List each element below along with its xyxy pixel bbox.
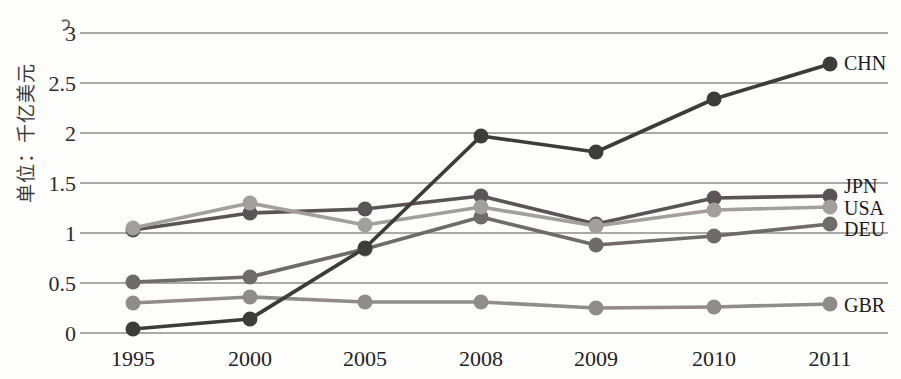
series-label-GBR: GBR bbox=[844, 294, 886, 316]
data-point-USA bbox=[358, 218, 373, 233]
data-point-GBR bbox=[243, 290, 258, 305]
data-point-GBR bbox=[823, 297, 838, 312]
data-point-CHN bbox=[358, 241, 373, 256]
data-point-USA bbox=[126, 221, 141, 236]
chart-figure: 单位：千亿美元 00.511.522.531995200020052008200… bbox=[0, 0, 901, 379]
y-tick-label: 0 bbox=[65, 321, 76, 346]
y-tick-label: 1 bbox=[65, 221, 76, 246]
data-point-USA bbox=[474, 200, 489, 215]
data-point-CHN bbox=[243, 312, 258, 327]
data-point-USA bbox=[823, 200, 838, 215]
series-line-DEU bbox=[133, 217, 830, 282]
data-point-CHN bbox=[589, 145, 604, 160]
y-tick-label: 3 bbox=[65, 21, 76, 46]
data-point-GBR bbox=[358, 295, 373, 310]
x-tick-label: 2010 bbox=[692, 346, 736, 371]
x-tick-label: 1995 bbox=[111, 346, 155, 371]
data-point-GBR bbox=[707, 300, 722, 315]
data-point-DEU bbox=[589, 238, 604, 253]
series-label-CHN: CHN bbox=[844, 52, 886, 74]
data-point-CHN bbox=[126, 322, 141, 337]
series-label-USA: USA bbox=[844, 197, 885, 219]
line-chart-svg: 00.511.522.53199520002005200820092010201… bbox=[0, 0, 901, 379]
x-tick-label: 2009 bbox=[574, 346, 618, 371]
data-point-CHN bbox=[474, 129, 489, 144]
x-tick-label: 2005 bbox=[343, 346, 387, 371]
x-tick-label: 2008 bbox=[459, 346, 503, 371]
data-point-JPN bbox=[358, 202, 373, 217]
data-point-GBR bbox=[126, 296, 141, 311]
data-point-DEU bbox=[823, 217, 838, 232]
y-tick-label: 0.5 bbox=[49, 271, 77, 296]
data-point-DEU bbox=[707, 229, 722, 244]
y-tick-label: 1.5 bbox=[49, 171, 77, 196]
data-point-USA bbox=[243, 196, 258, 211]
data-point-CHN bbox=[823, 57, 838, 72]
y-tick-label: 2.5 bbox=[49, 71, 77, 96]
data-point-DEU bbox=[243, 270, 258, 285]
data-point-GBR bbox=[589, 301, 604, 316]
x-tick-label: 2011 bbox=[808, 346, 851, 371]
data-point-USA bbox=[707, 203, 722, 218]
data-point-USA bbox=[589, 219, 604, 234]
data-point-GBR bbox=[474, 295, 489, 310]
data-point-DEU bbox=[126, 275, 141, 290]
y-tick-label: 2 bbox=[65, 121, 76, 146]
series-label-DEU: DEU bbox=[844, 218, 886, 240]
data-point-CHN bbox=[707, 92, 722, 107]
series-label-JPN: JPN bbox=[844, 175, 877, 197]
x-tick-label: 2000 bbox=[228, 346, 272, 371]
